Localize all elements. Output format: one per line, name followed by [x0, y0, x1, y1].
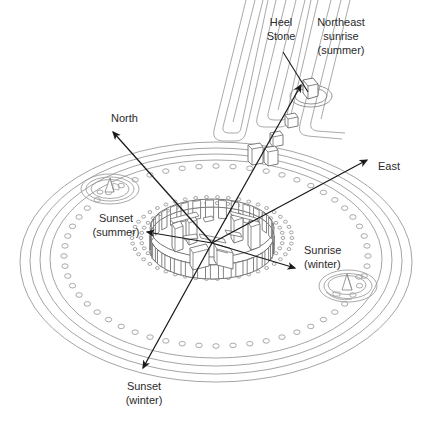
aubrey-hole: [279, 173, 285, 178]
y-z-hole: [148, 262, 152, 265]
y-z-hole: [216, 196, 220, 199]
south-barrow: [319, 270, 377, 302]
aubrey-hole: [365, 254, 371, 259]
aubrey-hole: [163, 339, 169, 344]
aubrey-hole: [132, 330, 138, 335]
aubrey-hole: [230, 343, 236, 348]
y-z-hole: [265, 207, 269, 210]
sarsen-upright: [174, 259, 181, 275]
y-z-hole: [226, 196, 230, 199]
y-z-hole: [280, 242, 284, 245]
aubrey-hole: [84, 206, 90, 211]
aubrey-hole: [356, 283, 362, 288]
aubrey-hole: [118, 324, 124, 329]
y-z-hole: [265, 267, 269, 270]
label-sunset-winter-line2: (winter): [126, 394, 163, 406]
y-z-hole: [148, 211, 152, 214]
label-sunset-summer: Sunset: [99, 212, 133, 224]
y-z-hole: [287, 248, 291, 251]
y-z-hole: [284, 220, 288, 223]
y-z-hole: [139, 237, 143, 240]
aubrey-hole: [364, 264, 370, 269]
stonehenge-plan-svg: Heel Stone Northeast sunrise (summer) No…: [0, 0, 432, 432]
aubrey-hole: [213, 344, 219, 349]
aubrey-hole: [294, 330, 300, 335]
sarsen-upright: [247, 258, 253, 274]
y-z-hole: [281, 237, 285, 240]
aubrey-hole: [247, 341, 253, 346]
y-z-hole: [279, 215, 283, 218]
y-z-hole: [146, 221, 150, 224]
aubrey-hole: [62, 264, 68, 269]
y-z-hole: [142, 247, 146, 250]
sarsen-upright: [210, 265, 218, 279]
aubrey-hole: [76, 215, 82, 220]
y-z-hole: [133, 248, 137, 251]
aubrey-hole: [294, 178, 300, 183]
sarsen-upright: [265, 248, 269, 265]
label-sunset-winter: Sunset: [127, 380, 161, 392]
label-northeast-sunrise: Northeast: [317, 16, 365, 28]
aubrey-hole: [320, 317, 326, 322]
y-z-hole: [137, 220, 141, 223]
aubrey-hole: [61, 254, 67, 259]
y-z-hole: [164, 203, 168, 206]
label-north: North: [111, 112, 138, 124]
y-z-hole: [140, 231, 144, 234]
y-z-hole: [284, 253, 288, 256]
aubrey-hole: [69, 283, 75, 288]
aubrey-hole: [163, 169, 169, 174]
aubrey-hole: [65, 274, 71, 279]
y-z-hole: [194, 196, 198, 199]
y-z-hole: [156, 207, 160, 210]
y-z-hole: [289, 231, 293, 234]
y-z-hole: [278, 226, 282, 229]
sarsen-upright: [271, 242, 273, 260]
y-z-hole: [287, 225, 291, 228]
label-east: East: [378, 160, 400, 172]
aubrey-hole: [356, 224, 362, 229]
aubrey-hole: [308, 183, 314, 188]
aubrey-hole: [105, 317, 111, 322]
aubrey-hole: [263, 169, 269, 174]
y-z-hole: [289, 242, 293, 245]
sarsen-upright: [165, 255, 171, 272]
y-z-hole: [280, 231, 284, 234]
y-z-hole: [279, 258, 283, 261]
label-heel-stone-line2: Stone: [267, 30, 296, 42]
aubrey-hole: [350, 215, 356, 220]
y-z-hole: [247, 200, 251, 203]
aubrey-hole: [84, 302, 90, 307]
aubrey-hole: [196, 343, 202, 348]
aubrey-hole: [69, 224, 75, 229]
y-z-hole: [146, 252, 150, 255]
sarsen-upright: [153, 244, 156, 261]
sarsen-upright: [150, 232, 151, 250]
y-z-hole: [274, 252, 278, 255]
y-z-hole: [131, 242, 135, 245]
aubrey-hole: [213, 164, 219, 169]
slaughter-stone: [248, 113, 298, 166]
aubrey-hole: [263, 339, 269, 344]
y-z-hole: [142, 258, 146, 261]
y-z-hole: [274, 221, 278, 224]
y-z-hole: [205, 196, 209, 199]
aubrey-hole: [147, 335, 153, 340]
aubrey-hole: [94, 310, 100, 315]
y-z-hole: [156, 267, 160, 270]
label-northeast-sunrise-line2: sunrise: [323, 30, 358, 42]
aubrey-hole: [62, 244, 68, 249]
aubrey-hole: [65, 234, 71, 239]
y-z-hole: [290, 237, 294, 240]
aubrey-hole: [179, 166, 185, 171]
y-z-hole: [272, 262, 276, 265]
aubrey-hole: [332, 198, 338, 203]
aubrey-hole: [279, 335, 285, 340]
sarsen-lintel: [193, 201, 201, 209]
y-z-hole: [142, 226, 146, 229]
label-northeast-sunrise-line3: (summer): [317, 44, 364, 56]
y-z-hole: [140, 242, 144, 245]
aubrey-hole: [364, 244, 370, 249]
aubrey-hole: [320, 190, 326, 195]
aubrey-hole: [332, 310, 338, 315]
